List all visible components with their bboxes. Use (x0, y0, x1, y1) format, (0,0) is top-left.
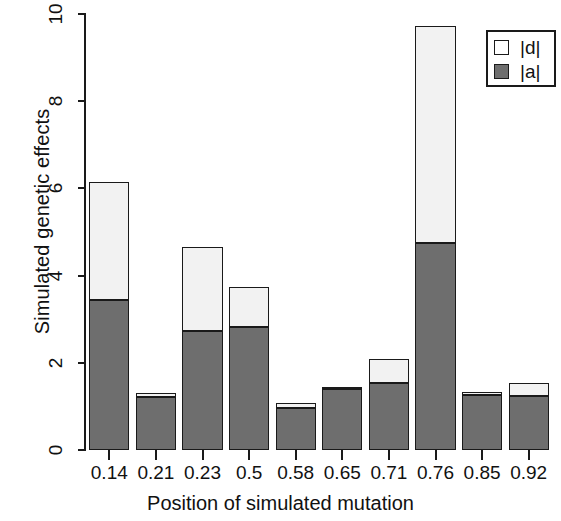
x-axis-tick (481, 450, 483, 460)
x-axis (86, 450, 552, 460)
bar-segment-a (182, 331, 222, 450)
y-axis-tick-label: 0 (45, 435, 67, 465)
x-axis-tick (388, 450, 390, 460)
bar-0.71 (369, 359, 409, 450)
legend-entry-a: |a| (494, 61, 554, 83)
y-axis-tick-label: 4 (45, 261, 67, 291)
bar-segment-a (229, 327, 269, 450)
bar-0.85 (462, 392, 502, 450)
x-axis-tick-label: 0.23 (184, 462, 221, 484)
plot-area (86, 14, 552, 450)
x-axis-tick-label: 0.71 (370, 462, 407, 484)
bar-segment-a (276, 408, 316, 450)
bar-segment-a (136, 397, 176, 450)
bar-segment-d (369, 359, 409, 383)
legend-label-d: |d| (520, 37, 540, 58)
bar-segment-a (462, 395, 502, 450)
bar-segment-d (229, 287, 269, 327)
y-axis-tick (78, 275, 86, 277)
y-axis-tick (78, 13, 86, 15)
bar-segment-a (89, 300, 129, 450)
y-axis-tick (78, 362, 86, 364)
bar-segment-d (182, 247, 222, 331)
y-axis-tick-label: 6 (45, 173, 67, 203)
x-axis-tick-label: 0.21 (137, 462, 174, 484)
bar-segment-a (369, 383, 409, 450)
bar-0.5 (229, 287, 269, 450)
bar-segment-d (509, 383, 549, 396)
y-axis-tick (78, 187, 86, 189)
x-axis-tick-label: 0.58 (277, 462, 314, 484)
legend-label-a: |a| (520, 61, 540, 82)
legend: |d| |a| (486, 30, 556, 87)
x-axis-tick (528, 450, 530, 460)
x-axis-tick (248, 450, 250, 460)
x-axis-tick (108, 450, 110, 460)
bar-segment-d (89, 182, 129, 300)
x-axis-tick (435, 450, 437, 460)
x-axis-tick-label: 0.85 (464, 462, 501, 484)
bar-segment-a (322, 389, 362, 450)
y-axis-tick-label: 8 (45, 86, 67, 116)
y-axis (78, 14, 86, 450)
legend-swatch-white-square-icon (494, 40, 509, 55)
bar-segment-a (509, 396, 549, 451)
x-axis-tick (295, 450, 297, 460)
x-axis-title: Position of simulated mutation (0, 492, 561, 515)
legend-swatch-gray-square-icon (494, 64, 509, 79)
y-axis-tick (78, 100, 86, 102)
bar-0.21 (136, 393, 176, 450)
legend-entry-d: |d| (494, 37, 554, 59)
y-axis-tick (78, 449, 86, 451)
x-axis-tick (341, 450, 343, 460)
bar-0.65 (322, 387, 362, 450)
bar-0.23 (182, 247, 222, 450)
x-axis-tick-label: 0.92 (510, 462, 547, 484)
bar-0.92 (509, 383, 549, 450)
x-axis-tick-label: 0.5 (236, 462, 262, 484)
x-axis-tick-label: 0.76 (417, 462, 454, 484)
bar-chart-figure: Simulated genetic effects Position of si… (0, 0, 561, 521)
bar-0.14 (89, 182, 129, 450)
bar-0.76 (415, 26, 455, 450)
bar-segment-d (415, 26, 455, 243)
bar-segment-a (415, 243, 455, 450)
x-axis-tick-label: 0.65 (324, 462, 361, 484)
x-axis-tick (155, 450, 157, 460)
bar-0.58 (276, 403, 316, 450)
y-axis-tick-label: 10 (45, 0, 67, 29)
x-axis-tick-label: 0.14 (91, 462, 128, 484)
y-axis-title: Simulated genetic effects (31, 72, 54, 372)
x-axis-tick (202, 450, 204, 460)
y-axis-tick-label: 2 (45, 348, 67, 378)
